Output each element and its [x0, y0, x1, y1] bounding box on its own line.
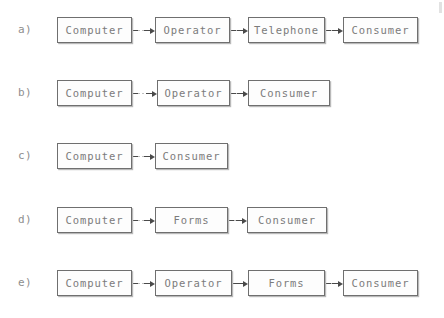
diagram-node-label: Consumer [352, 24, 410, 35]
diagram-node: Consumer [343, 270, 418, 296]
diagram-row: e)ComputerOperatorFormsConsumer [0, 270, 444, 310]
diagram-node: Consumer [155, 143, 228, 169]
scan-artifact [439, 2, 442, 13]
diagram-node: Forms [155, 207, 228, 233]
row-label: d) [18, 213, 32, 226]
diagram-node-label: Consumer [258, 214, 316, 225]
diagram-node: Telephone [248, 17, 325, 43]
diagram-node: Forms [248, 270, 325, 296]
diagram-node-label: Operator [164, 24, 222, 35]
diagram-node: Computer [57, 143, 132, 169]
connector-arrow [132, 30, 155, 31]
diagram-node-label: Consumer [260, 87, 318, 98]
diagram-node: Computer [57, 80, 132, 106]
connector-arrow [325, 30, 343, 31]
diagram-row: c)ComputerConsumer [0, 143, 444, 183]
diagram-node-label: Forms [268, 277, 304, 288]
diagram-node: Computer [57, 207, 132, 233]
diagram-node-label: Consumer [163, 150, 221, 161]
connector-dash [138, 93, 146, 94]
diagram-node-label: Forms [173, 214, 209, 225]
diagram-node-label: Telephone [254, 24, 319, 35]
diagram-row: b)ComputerOperatorConsumer [0, 80, 444, 120]
diagram-row: d)ComputerFormsConsumer [0, 207, 444, 247]
connector-arrow [228, 220, 247, 221]
diagram-node: Operator [155, 270, 232, 296]
connector-arrow [232, 283, 248, 284]
diagram-node-label: Computer [66, 24, 124, 35]
connector-arrow [132, 283, 155, 284]
diagram-row: a)ComputerOperatorTelephoneConsumer [0, 17, 444, 57]
diagram-node-label: Operator [165, 87, 223, 98]
connector-arrow [132, 156, 155, 157]
connector-arrow [132, 93, 157, 94]
row-label: b) [18, 86, 32, 99]
diagram-node-label: Computer [66, 277, 124, 288]
diagram-node: Operator [157, 80, 230, 106]
diagram-node-label: Computer [66, 87, 124, 98]
connector-arrow [132, 220, 155, 221]
diagram-node: Consumer [248, 80, 330, 106]
block-diagram: a)ComputerOperatorTelephoneConsumerb)Com… [0, 0, 444, 318]
diagram-node: Consumer [343, 17, 418, 43]
diagram-node: Computer [57, 17, 132, 43]
diagram-node: Consumer [247, 207, 327, 233]
diagram-node: Operator [155, 17, 230, 43]
diagram-node-label: Operator [165, 277, 223, 288]
row-label: a) [18, 23, 32, 36]
connector-arrow [325, 283, 343, 284]
diagram-node-label: Computer [66, 150, 124, 161]
diagram-node: Computer [57, 270, 132, 296]
connector-arrow [230, 30, 248, 31]
diagram-node-label: Computer [66, 214, 124, 225]
connector-arrow [230, 93, 248, 94]
row-label: e) [18, 276, 32, 289]
row-label: c) [18, 149, 32, 162]
diagram-node-label: Consumer [352, 277, 410, 288]
